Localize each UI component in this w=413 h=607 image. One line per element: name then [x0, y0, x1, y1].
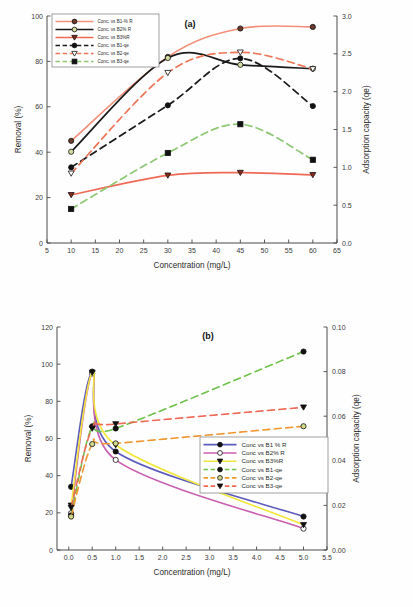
circle-open-marker: [90, 441, 95, 446]
circle-filled-marker: [69, 138, 74, 143]
series-line-2: [71, 53, 313, 152]
x-tick-label: 3.5: [228, 554, 238, 561]
x-tick-label: 2.5: [181, 554, 191, 561]
y2-tick-label: 0.00: [332, 547, 346, 554]
y-tick-label: 120: [41, 324, 53, 331]
legend-label-6: Conc vs B3-qe: [242, 482, 283, 489]
y-tick-label: 20: [45, 509, 53, 516]
y2-axis-title: Adsorption capacity (qe): [352, 394, 361, 483]
legend: Conc vs B1 % RConc vs B2% RConc vs B3%RC…: [200, 437, 328, 493]
chart-panel-b: 0.00.51.01.52.02.53.03.54.04.55.05.50204…: [0, 297, 413, 607]
y-tick-label: 40: [45, 472, 53, 479]
y2-tick-label: 0.0: [342, 240, 352, 247]
square-marker: [72, 59, 77, 64]
circle-open-marker: [165, 55, 170, 60]
legend-label-4: Conc. vs B1-qe: [98, 43, 130, 48]
circle-filled-marker: [69, 165, 74, 170]
figure-container: 51015202530354045505560650204060801000.0…: [0, 0, 413, 607]
circle-filled-marker: [72, 19, 77, 24]
y2-tick-label: 0.04: [332, 457, 346, 464]
x-tick-label: 25: [140, 247, 148, 254]
y2-tick-label: 0.08: [332, 368, 346, 375]
y-tick-label: 40: [35, 149, 43, 156]
circle-filled-marker: [165, 103, 170, 108]
y-tick-label: 0: [49, 547, 53, 554]
series-line-6: [71, 124, 313, 209]
x-tick-label: 5: [45, 247, 49, 254]
y-axis-title: Removal (%): [24, 415, 33, 463]
circle-open-marker: [301, 424, 306, 429]
legend: Conc. vs B1-% RConc. vs B2% RConc. vs B3…: [52, 14, 159, 67]
x-tick-label: 2.0: [158, 554, 168, 561]
panel-b-svg: 0.00.51.01.52.02.53.03.54.04.55.05.50204…: [0, 297, 413, 607]
x-tick-label: 50: [261, 247, 269, 254]
circle-open-marker: [218, 475, 223, 480]
triangle-marker: [165, 70, 171, 75]
x-tick-label: 5.5: [322, 554, 332, 561]
circle-open-marker: [68, 514, 73, 519]
x-tick-label: 1.5: [134, 554, 144, 561]
x-tick-label: 4.5: [275, 554, 285, 561]
legend-label-2: Conc vs B2% R: [242, 449, 286, 456]
circle-filled-marker: [238, 26, 243, 31]
y-tick-label: 100: [31, 13, 43, 20]
x-tick-label: 60: [309, 247, 317, 254]
x-tick-label: 4.0: [252, 554, 262, 561]
circle-filled-marker: [301, 514, 306, 519]
legend-label-4: Conc vs B1-qe: [242, 466, 283, 473]
y2-tick-label: 1.0: [342, 164, 352, 171]
circle-filled-marker: [238, 56, 243, 61]
legend-label-5: Conc vs B2-qe: [242, 474, 283, 481]
circle-filled-marker: [113, 449, 118, 454]
panel-tag: (b): [202, 331, 214, 341]
y-tick-label: 100: [41, 361, 53, 368]
triangle-marker: [68, 171, 74, 176]
legend-label-1: Conc vs B1 % R: [242, 441, 288, 448]
legend-label-3: Conc. vs B3%R: [98, 35, 131, 40]
circle-filled-marker: [218, 467, 223, 472]
y2-tick-label: 0.06: [332, 413, 346, 420]
x-tick-label: 20: [116, 247, 124, 254]
y2-tick-label: 2.0: [342, 88, 352, 95]
circle-filled-marker: [310, 24, 315, 29]
legend-label-5: Conc. vs B2-qe: [98, 51, 130, 56]
square-marker: [69, 206, 74, 211]
legend-label-1: Conc. vs B1-% R: [98, 19, 134, 24]
x-tick-label: 0.0: [64, 554, 74, 561]
circle-open-marker: [238, 62, 243, 67]
x-tick-label: 1.0: [111, 554, 121, 561]
series-line-3: [71, 173, 313, 195]
x-tick-label: 0.5: [87, 554, 97, 561]
x-axis-title: Concentration (mg/L): [154, 568, 231, 577]
x-tick-label: 3.0: [205, 554, 215, 561]
chart-panel-a: 51015202530354045505560650204060801000.0…: [0, 0, 413, 300]
circle-filled-marker: [72, 43, 77, 48]
y2-axis-title: Adsorption capacity (qe): [362, 85, 371, 174]
x-tick-label: 15: [91, 247, 99, 254]
y-tick-label: 20: [35, 194, 43, 201]
y2-tick-label: 0.02: [332, 502, 346, 509]
legend-label-6: Conc. vs B3-qe: [98, 59, 130, 64]
y-tick-label: 80: [35, 58, 43, 65]
y2-tick-label: 3.0: [342, 13, 352, 20]
y2-tick-label: 0.10: [332, 324, 346, 331]
square-marker: [165, 150, 170, 155]
y-axis-title: Removal (%): [14, 106, 23, 154]
panel-a-svg: 51015202530354045505560650204060801000.0…: [0, 0, 413, 300]
x-tick-label: 65: [333, 247, 341, 254]
y-tick-label: 60: [45, 435, 53, 442]
x-tick-label: 10: [67, 247, 75, 254]
legend-label-3: Conc vs B3%R: [242, 457, 284, 464]
x-tick-label: 45: [236, 247, 244, 254]
y2-tick-label: 2.5: [342, 50, 352, 57]
square-marker: [238, 122, 243, 127]
square-marker: [310, 157, 315, 162]
y-tick-label: 80: [45, 398, 53, 405]
x-tick-label: 35: [188, 247, 196, 254]
y-tick-label: 0: [39, 240, 43, 247]
circle-open-marker: [69, 149, 74, 154]
x-tick-label: 40: [212, 247, 220, 254]
circle-filled-marker: [301, 349, 306, 354]
y2-tick-label: 1.5: [342, 126, 352, 133]
x-axis-title: Concentration (mg/L): [154, 261, 231, 270]
